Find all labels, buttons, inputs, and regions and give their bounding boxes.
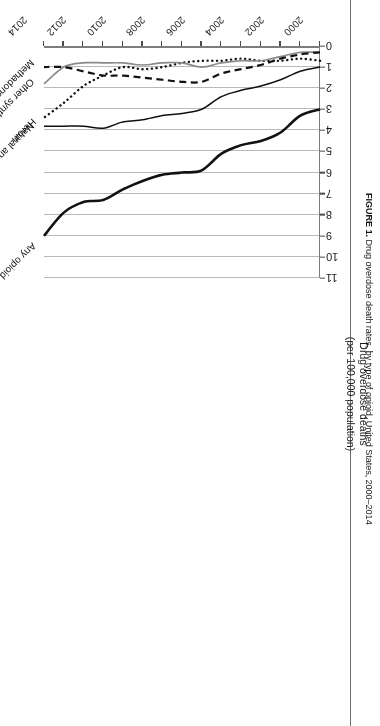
y-tick-mark	[320, 172, 325, 173]
y-tick-mark	[320, 256, 325, 257]
y-axis-title-line2: (per 100,000 population)	[344, 278, 357, 510]
x-tick-label: 2006	[164, 14, 188, 38]
y-tick-mark	[320, 277, 325, 278]
figure-caption-label: FIGURE 1.	[364, 193, 374, 237]
series-label: Any opioid	[0, 240, 38, 282]
y-tick-label: 6	[326, 167, 332, 179]
y-tick-mark	[320, 66, 325, 67]
series-lines	[44, 46, 320, 278]
opioid-overdose-figure: FIGURE 1. Drug overdose death rates, by …	[0, 0, 380, 726]
figure-rotation-wrapper: FIGURE 1. Drug overdose death rates, by …	[0, 0, 380, 726]
x-tick-label: 2002	[243, 14, 267, 38]
x-tick-label: 2014	[6, 14, 30, 38]
series-line	[44, 52, 320, 84]
plot-area: 01234567891011 2000200220042006200820102…	[44, 46, 320, 278]
y-tick-mark	[320, 88, 325, 89]
series-line	[44, 67, 320, 128]
y-tick-label: 5	[326, 145, 332, 157]
y-tick-mark	[320, 193, 325, 194]
y-tick-mark	[320, 109, 325, 110]
y-tick-mark	[320, 151, 325, 152]
y-tick-label: 4	[326, 124, 332, 136]
series-label: Natural and semisynthetic opioids (e.g.,…	[0, 120, 36, 336]
series-line	[44, 109, 320, 236]
y-tick-mark	[320, 214, 325, 215]
y-axis-title-line1: Drug overdose deaths	[357, 278, 370, 510]
y-tick-label: 2	[326, 82, 332, 94]
y-tick-mark	[320, 235, 325, 236]
x-tick-label: 2008	[124, 14, 148, 38]
y-tick-label: 3	[326, 103, 332, 115]
y-tick-label: 9	[326, 230, 332, 242]
y-tick-label: 11	[326, 272, 337, 284]
y-tick-label: 8	[326, 209, 332, 221]
series-line	[44, 59, 320, 118]
x-tick-label: 2012	[45, 14, 69, 38]
y-tick-label: 10	[326, 251, 338, 263]
x-tick-label: 2000	[282, 14, 306, 38]
y-tick-label: 7	[326, 188, 332, 200]
y-axis-title: Drug overdose deaths (per 100,000 popula…	[332, 278, 370, 510]
x-tick-label: 2010	[85, 14, 109, 38]
y-tick-mark	[320, 130, 325, 131]
y-tick-mark	[320, 45, 325, 46]
plot-frame: 01234567891011 2000200220042006200820102…	[44, 46, 320, 278]
y-tick-label: 0	[326, 40, 332, 52]
y-tick-label: 1	[326, 61, 332, 73]
x-tick-label: 2004	[203, 14, 227, 38]
